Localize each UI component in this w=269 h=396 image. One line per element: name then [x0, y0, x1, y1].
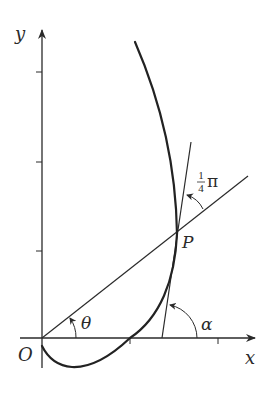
polar-curve: [42, 42, 177, 367]
y-axis-label: y: [14, 23, 26, 44]
x-axis-label: x: [245, 347, 255, 368]
alpha-label: α: [201, 314, 213, 334]
psi-label: 1 4 π: [197, 169, 218, 194]
theta-arc: [70, 318, 76, 338]
origin-label: O: [18, 344, 33, 365]
psi-arc: [187, 195, 203, 209]
point-label: P: [181, 232, 194, 252]
diagram-canvas: y x O P θ α 1 4 π: [0, 0, 269, 396]
psi-pi-symbol: π: [207, 171, 218, 191]
psi-numerator: 1: [198, 169, 204, 181]
alpha-arc: [170, 305, 197, 338]
radius-line-OP: [42, 176, 248, 338]
theta-label: θ: [81, 313, 91, 333]
psi-denominator: 4: [198, 182, 204, 194]
axes: [20, 30, 255, 368]
